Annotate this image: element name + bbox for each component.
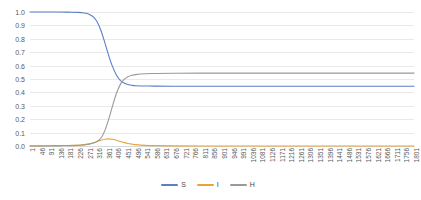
x-axis-tick-label: 361 bbox=[107, 148, 114, 159]
x-axis: 1469113618122627131636140645149654158663… bbox=[30, 148, 414, 182]
x-axis-tick-label: 1711 bbox=[395, 148, 402, 162]
chart-legend: SIH bbox=[0, 181, 416, 188]
legend-item-S[interactable]: S bbox=[161, 181, 186, 188]
x-axis-tick-label: 1621 bbox=[376, 148, 383, 162]
x-axis-tick-label: 811 bbox=[203, 148, 210, 158]
y-axis-tick-label: 1.0 bbox=[15, 9, 25, 16]
x-axis-tick-label: 901 bbox=[222, 148, 229, 159]
x-axis-tick-label: 406 bbox=[116, 148, 123, 159]
y-axis-tick-label: 0.6 bbox=[15, 62, 25, 69]
x-axis-tick-label: 1216 bbox=[289, 148, 296, 162]
x-axis-tick-label: 1801 bbox=[414, 148, 421, 162]
x-axis-tick-label: 1126 bbox=[270, 148, 277, 162]
legend-swatch-H bbox=[230, 184, 247, 186]
y-axis-tick-label: 0.2 bbox=[15, 116, 25, 123]
x-axis-tick-label: 1261 bbox=[299, 148, 306, 162]
series-line-H bbox=[30, 73, 414, 146]
x-axis-tick-label: 946 bbox=[232, 148, 239, 159]
series-line-S bbox=[30, 12, 414, 86]
plot-area bbox=[30, 12, 414, 146]
x-axis-tick-label: 1441 bbox=[337, 148, 344, 162]
x-axis-tick-label: 271 bbox=[88, 148, 95, 159]
x-axis-tick-label: 91 bbox=[49, 148, 56, 155]
legend-label-H: H bbox=[250, 181, 255, 188]
x-axis-tick-label: 1036 bbox=[251, 148, 258, 162]
y-axis-tick-label: 0.9 bbox=[15, 22, 25, 29]
x-axis-tick-label: 766 bbox=[193, 148, 200, 159]
x-axis-tick-label: 451 bbox=[126, 148, 133, 159]
legend-item-H[interactable]: H bbox=[230, 181, 255, 188]
x-axis-tick-label: 1486 bbox=[347, 148, 354, 162]
x-axis-tick-label: 1531 bbox=[356, 148, 363, 162]
x-axis-tick-label: 46 bbox=[40, 148, 47, 155]
x-axis-tick-label: 856 bbox=[212, 148, 219, 159]
x-axis-tick-label: 181 bbox=[68, 148, 75, 159]
legend-label-S: S bbox=[181, 181, 186, 188]
x-axis-tick-label: 1666 bbox=[385, 148, 392, 162]
y-axis-tick-label: 0.3 bbox=[15, 102, 25, 109]
x-axis-tick-label: 541 bbox=[145, 148, 152, 159]
x-axis-tick-label: 1081 bbox=[260, 148, 267, 162]
legend-item-I[interactable]: I bbox=[197, 181, 219, 188]
x-axis-tick-label: 721 bbox=[184, 148, 191, 159]
x-axis-tick-label: 1756 bbox=[404, 148, 411, 162]
y-axis: 0.00.10.20.30.40.50.60.70.80.91.0 bbox=[0, 12, 28, 146]
x-axis-tick-label: 586 bbox=[155, 148, 162, 159]
x-axis-tick-label: 1351 bbox=[318, 148, 325, 162]
x-axis-tick-label: 1306 bbox=[308, 148, 315, 162]
y-axis-tick-label: 0.0 bbox=[15, 143, 25, 150]
legend-label-I: I bbox=[217, 181, 219, 188]
x-axis-tick-label: 1 bbox=[30, 148, 37, 152]
y-axis-tick-label: 0.1 bbox=[15, 129, 25, 136]
x-axis-tick-label: 631 bbox=[164, 148, 171, 159]
x-axis-tick-label: 136 bbox=[59, 148, 66, 159]
y-axis-tick-label: 0.4 bbox=[15, 89, 25, 96]
x-axis-tick-label: 676 bbox=[174, 148, 181, 159]
x-axis-tick-label: 1396 bbox=[328, 148, 335, 162]
x-axis-tick-label: 991 bbox=[241, 148, 248, 159]
legend-swatch-S bbox=[161, 184, 178, 186]
y-axis-tick-label: 0.7 bbox=[15, 49, 25, 56]
series-layer bbox=[30, 12, 414, 146]
x-axis-tick-label: 226 bbox=[78, 148, 85, 159]
x-axis-tick-label: 316 bbox=[97, 148, 104, 159]
y-axis-tick-label: 0.5 bbox=[15, 76, 25, 83]
x-axis-tick-label: 1171 bbox=[280, 148, 287, 162]
y-axis-tick-label: 0.8 bbox=[15, 35, 25, 42]
x-axis-tick-label: 496 bbox=[136, 148, 143, 159]
legend-swatch-I bbox=[197, 184, 214, 186]
x-axis-tick-label: 1576 bbox=[366, 148, 373, 162]
